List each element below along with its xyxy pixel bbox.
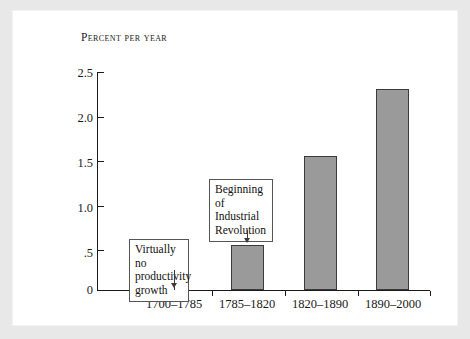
annotation-arrow-stem-1q <box>174 271 175 272</box>
annotation-line: Industrial <box>215 210 267 224</box>
x-tickmark-4 <box>358 291 359 296</box>
annotation-arrow-stem-1s <box>174 289 175 290</box>
annotation-line: Virtually no <box>135 243 183 270</box>
x-tickmark-3 <box>285 291 286 296</box>
annotation-arrow-stem-1k <box>174 277 175 278</box>
x-tickmark-5 <box>430 291 431 296</box>
annotation-arrow-head-2 <box>244 238 250 243</box>
annotation-arrow-stem-1j <box>174 278 175 279</box>
y-tickmark-1-5 <box>98 161 104 162</box>
annotation-arrow-stem-1o <box>174 273 175 274</box>
bar-1785-1820 <box>231 245 264 290</box>
annotation-line: productivity <box>135 270 183 284</box>
annotation-line: Beginning of <box>215 183 267 210</box>
annotation-arrow-stem-1h <box>174 280 175 281</box>
bar-1820-1890 <box>304 156 337 290</box>
y-tick-label-1-5: 1.5 <box>59 156 93 171</box>
y-axis-title: Percent per year <box>81 31 167 43</box>
chart-panel: Percent per year 2.5 2.0 1.5 1.0 .5 0 <box>13 11 457 325</box>
y-tickmark-2-5 <box>98 72 104 73</box>
annotation-virtually-no-productivity-growth: Virtually no productivity growth <box>129 239 189 302</box>
y-tick-label-2-0: 2.0 <box>59 111 93 126</box>
y-tickmark-0-5 <box>98 250 104 251</box>
annotation-arrow-stem-1r <box>174 270 175 271</box>
annotation-line: Revolution <box>215 224 267 238</box>
annotation-arrow-stem-1g <box>174 281 175 282</box>
x-tick-label-1890-2000: 1890–2000 <box>348 297 438 312</box>
bar-1890-2000 <box>376 89 409 290</box>
y-axis-line <box>97 72 98 291</box>
bar-chart: Percent per year 2.5 2.0 1.5 1.0 .5 0 <box>13 11 457 325</box>
y-tickmark-1-0 <box>98 206 104 207</box>
y-tick-label-0-5: .5 <box>59 246 93 261</box>
annotation-beginning-of-industrial-revolution: Beginning of Industrial Revolution <box>209 179 273 242</box>
annotation-arrow-stem-1n <box>174 274 175 275</box>
annotation-arrow-stem-1l <box>174 276 175 277</box>
y-tick-label-1-0: 1.0 <box>59 201 93 216</box>
y-tick-label-0: 0 <box>59 283 93 298</box>
y-tick-label-2-5: 2.5 <box>59 66 93 81</box>
annotation-arrow-stem-1m <box>174 275 175 276</box>
x-tickmark-2 <box>212 291 213 296</box>
y-tickmark-2-0 <box>98 117 104 118</box>
annotation-arrow-stem-1p <box>174 272 175 273</box>
annotation-arrow-head-1 <box>171 283 177 288</box>
annotation-arrow-stem-1i <box>174 279 175 280</box>
annotation-arrow-stem-1u <box>174 288 175 289</box>
